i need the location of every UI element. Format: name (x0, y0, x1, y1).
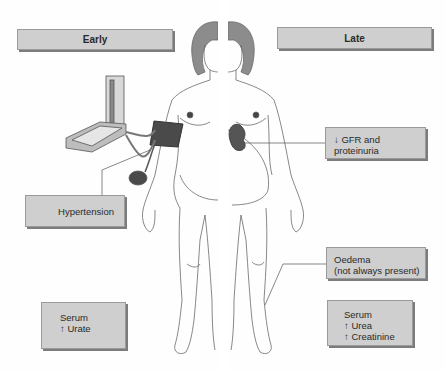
urea-text: ↑ Urea (344, 320, 412, 331)
oedema-label: Oedema (not always present) (326, 247, 426, 279)
serum-urate-label: Serum ↑ Urate (41, 302, 126, 349)
proteinuria-text: proteinuria (334, 145, 425, 156)
serum-urea-creatinine-label: Serum ↑ Urea ↑ Creatinine (327, 300, 413, 346)
hypertension-text: Hypertension (58, 206, 114, 217)
urate-text: ↑ Urate (60, 323, 125, 334)
serum-late-text: Serum (344, 309, 412, 320)
sphygmomanometer-icon (66, 76, 156, 185)
pre-eclampsia-diagram: Early Late Hypertension Serum ↑ Urate ↓ … (0, 0, 446, 371)
gfr-text: ↓ GFR and (334, 134, 425, 145)
early-heading-text: Early (83, 34, 107, 45)
left-body-figure (142, 22, 218, 354)
hypertension-label: Hypertension (25, 195, 125, 227)
late-heading-text: Late (344, 33, 365, 44)
oedema-text: Oedema (334, 254, 425, 265)
late-heading: Late (277, 27, 432, 49)
gfr-proteinuria-label: ↓ GFR and proteinuria (325, 127, 426, 159)
serum-text: Serum (60, 312, 125, 323)
early-heading: Early (17, 29, 173, 50)
leader-lines (102, 143, 326, 305)
center-divider (218, 0, 228, 371)
oedema-note-text: (not always present) (334, 265, 425, 276)
creatinine-text: ↑ Creatinine (344, 331, 412, 342)
kidney-icon (229, 124, 245, 150)
